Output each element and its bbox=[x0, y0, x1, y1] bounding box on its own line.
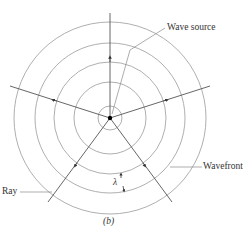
wavelength-marker bbox=[121, 174, 124, 191]
wave-source-dot bbox=[108, 116, 112, 120]
ray-right bbox=[110, 86, 210, 118]
wavefront-label: Wavefront bbox=[203, 161, 243, 171]
ray-lower-right bbox=[110, 118, 172, 202]
leader-lines bbox=[20, 28, 202, 192]
wavelength-label: λ bbox=[113, 177, 117, 187]
wave-diagram bbox=[0, 0, 246, 236]
wave-source-leader bbox=[112, 28, 165, 114]
ray-lower-left bbox=[48, 118, 110, 202]
figure-caption: (b) bbox=[103, 216, 114, 226]
ray-left bbox=[10, 86, 110, 118]
wave-source-label: Wave source bbox=[167, 22, 216, 32]
ray-label: Ray bbox=[2, 186, 17, 196]
